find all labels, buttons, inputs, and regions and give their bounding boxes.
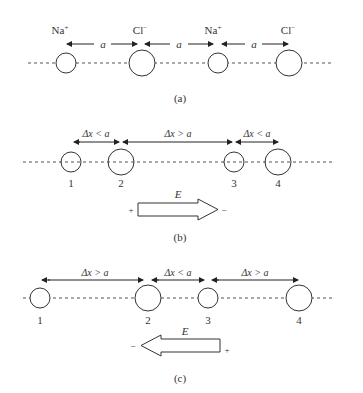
svg-text:−: − (221, 205, 226, 215)
svg-text:a: a (100, 38, 106, 50)
ion-1 (30, 288, 50, 308)
displacement-arrow-1: Δx > a (42, 267, 143, 280)
electric-field-arrow-right: E + − (128, 188, 226, 220)
ion-number: 4 (296, 314, 302, 326)
svg-text:+: + (224, 345, 229, 355)
electric-field-arrow-left: E − + (130, 325, 229, 356)
ion-2 (135, 285, 161, 311)
caption-a: (a) (174, 92, 187, 105)
ion-number: 2 (145, 314, 151, 326)
caption-c: (c) (174, 372, 187, 385)
svg-text:Δx < a: Δx < a (163, 267, 191, 278)
displacement-arrow-2: Δx > a (123, 128, 232, 142)
displacement-arrow-3: Δx > a (212, 267, 298, 280)
svg-text:Cl−: Cl− (133, 24, 147, 36)
svg-text:Δx < a: Δx < a (242, 128, 270, 139)
panel-b: 1 2 3 4 Δx < a Δx > a Δx < a E + − (b) (23, 128, 332, 244)
ion-3 (198, 288, 218, 308)
svg-text:Δx < a: Δx < a (81, 128, 109, 139)
ion-na-2: Na+ (205, 24, 228, 73)
ion-4 (286, 285, 312, 311)
svg-text:Δx > a: Δx > a (163, 128, 191, 139)
caption-b: (b) (174, 231, 187, 244)
ion-displacement-diagram: Na+ Cl− Na+ Cl− a a a (a) (0, 0, 363, 393)
svg-text:Cl−: Cl− (281, 24, 295, 36)
svg-text:Δx > a: Δx > a (80, 267, 108, 278)
svg-text:+: + (128, 205, 133, 215)
svg-text:−: − (130, 341, 135, 351)
svg-text:Na+: Na+ (52, 24, 69, 36)
displacement-arrow-1: Δx < a (74, 128, 119, 142)
panel-c: 1 2 3 4 Δx > a Δx < a Δx > a E − + (c) (23, 267, 332, 385)
ion-number: 4 (275, 177, 281, 189)
spacing-arrow-3: a (222, 38, 288, 50)
svg-text:a: a (176, 38, 182, 50)
ion-number: 1 (68, 177, 74, 189)
ion-number: 1 (37, 314, 43, 326)
svg-text:Na+: Na+ (205, 24, 222, 36)
ion-cl-2: Cl− (276, 24, 302, 76)
svg-text:Δx > a: Δx > a (240, 267, 268, 278)
ion-na-1: Na+ (52, 24, 76, 73)
spacing-arrow-1: a (67, 38, 137, 50)
svg-text:E: E (174, 188, 182, 200)
ion-number: 3 (231, 177, 237, 189)
spacing-arrow-2: a (145, 38, 213, 50)
displacement-arrow-2: Δx < a (152, 267, 204, 280)
ion-cl-1: Cl− (129, 24, 155, 76)
svg-text:a: a (251, 38, 257, 50)
svg-text:E: E (181, 325, 189, 337)
panel-a: Na+ Cl− Na+ Cl− a a a (a) (28, 24, 332, 105)
ion-number: 2 (118, 177, 124, 189)
displacement-arrow-3: Δx < a (236, 128, 278, 142)
ion-number: 3 (205, 314, 211, 326)
